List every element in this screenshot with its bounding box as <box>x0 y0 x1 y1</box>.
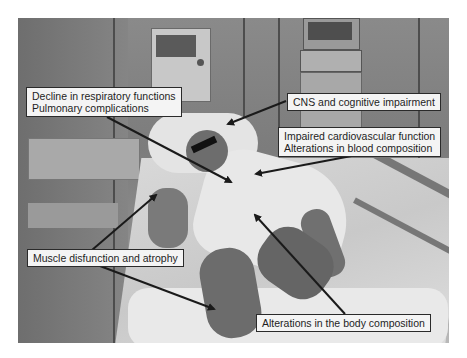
icu-patient-photo <box>18 18 449 343</box>
label-cns: CNS and cognitive impairment <box>287 93 441 111</box>
bedside-shelf <box>28 138 140 180</box>
label-muscle: Muscle disfunction and atrophy <box>27 249 184 267</box>
monitor-knob <box>197 59 204 66</box>
label-body-composition: Alterations in the body composition <box>256 314 431 332</box>
monitor-screen <box>308 22 352 40</box>
label-respiratory: Decline in respiratory functions Pulmona… <box>26 87 182 117</box>
label-cardio: Impaired cardiovascular function Alterat… <box>278 127 441 157</box>
label-body-composition-line1: Alterations in the body composition <box>262 317 425 329</box>
infusion-pump <box>300 50 362 72</box>
label-cns-line1: CNS and cognitive impairment <box>293 96 435 108</box>
patient-arm <box>148 188 188 248</box>
wall <box>18 18 128 343</box>
label-cardio-line2: Alterations in blood composition <box>284 142 435 154</box>
label-respiratory-line2: Pulmonary complications <box>32 102 176 114</box>
label-cardio-line1: Impaired cardiovascular function <box>284 130 435 142</box>
iv-pole <box>113 18 115 343</box>
label-respiratory-line1: Decline in respiratory functions <box>32 90 176 102</box>
ventilator-monitor <box>303 18 360 50</box>
label-muscle-line1: Muscle disfunction and atrophy <box>33 252 178 264</box>
monitor-screen <box>156 35 196 57</box>
bedside-drawer <box>28 203 118 228</box>
